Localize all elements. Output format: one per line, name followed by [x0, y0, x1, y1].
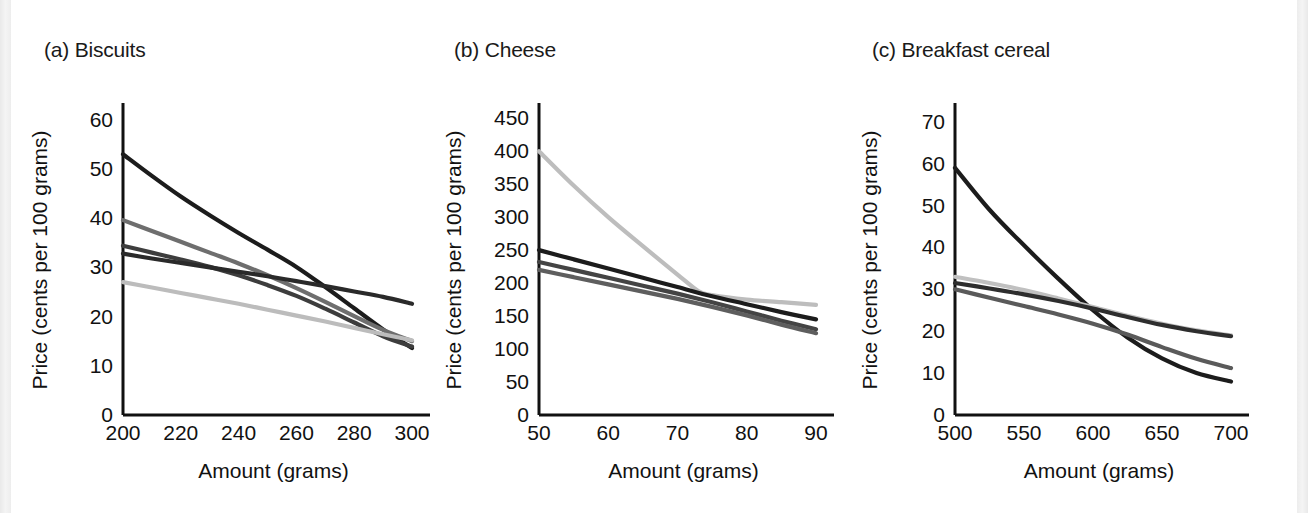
- y-axis-title: Price (cents per 100 grams): [858, 130, 881, 389]
- y-tick-label: 400: [494, 139, 529, 162]
- series-line: [123, 254, 412, 304]
- series-line: [539, 151, 816, 305]
- y-tick-label: 50: [90, 157, 113, 180]
- y-tick-label: 450: [494, 106, 529, 129]
- figure-container: (a) Biscuits 010203040506020022024026028…: [0, 0, 1308, 513]
- y-tick-label: 20: [922, 319, 945, 342]
- y-tick-label: 100: [494, 337, 529, 360]
- y-tick-label: 40: [90, 206, 113, 229]
- panel-cheese: (b) Cheese 05010015020025030035040045050…: [431, 0, 851, 513]
- x-tick-label: 550: [1006, 421, 1041, 444]
- y-tick-label: 200: [494, 271, 529, 294]
- y-tick-label: 50: [506, 370, 529, 393]
- series-line: [123, 220, 412, 341]
- panel-biscuits: (a) Biscuits 010203040506020022024026028…: [11, 0, 431, 513]
- x-tick-label: 220: [163, 421, 198, 444]
- panels-row: (a) Biscuits 010203040506020022024026028…: [11, 0, 1297, 513]
- y-tick-label: 60: [922, 152, 945, 175]
- x-tick-label: 50: [527, 421, 550, 444]
- panel-breakfast-cereal: (c) Breakfast cereal 0102030405060705005…: [851, 0, 1297, 513]
- y-tick-label: 60: [90, 108, 113, 131]
- x-tick-label: 240: [221, 421, 256, 444]
- y-axis-title: Price (cents per 100 grams): [28, 130, 51, 389]
- x-tick-label: 60: [597, 421, 620, 444]
- x-axis-title: Amount (grams): [198, 459, 349, 482]
- left-edge-strip: [0, 0, 11, 513]
- series-line: [955, 277, 1231, 336]
- series-line: [955, 168, 1231, 382]
- series-line: [123, 282, 412, 340]
- y-tick-label: 40: [922, 235, 945, 258]
- y-tick-label: 20: [90, 305, 113, 328]
- x-tick-label: 260: [279, 421, 314, 444]
- series-line: [123, 154, 412, 348]
- chart-plot-c: 010203040506070500550600650700Price (cen…: [851, 0, 1297, 513]
- y-tick-label: 30: [90, 255, 113, 278]
- y-tick-label: 150: [494, 304, 529, 327]
- x-tick-label: 80: [735, 421, 758, 444]
- y-tick-label: 30: [922, 277, 945, 300]
- x-tick-label: 600: [1075, 421, 1110, 444]
- y-tick-label: 50: [922, 194, 945, 217]
- y-tick-label: 10: [922, 361, 945, 384]
- x-tick-label: 650: [1144, 421, 1179, 444]
- series-line: [955, 283, 1231, 336]
- series-line: [539, 250, 816, 319]
- x-axis-title: Amount (grams): [1024, 459, 1175, 482]
- x-tick-label: 300: [394, 421, 429, 444]
- x-tick-label: 500: [937, 421, 972, 444]
- y-tick-label: 70: [922, 110, 945, 133]
- chart-plot-b: 0501001502002503003504004505060708090Pri…: [431, 0, 851, 513]
- chart-plot-a: 0102030405060200220240260280300Price (ce…: [11, 0, 431, 513]
- y-tick-label: 250: [494, 238, 529, 261]
- x-tick-label: 200: [105, 421, 140, 444]
- y-tick-label: 300: [494, 205, 529, 228]
- y-axis-title: Price (cents per 100 grams): [442, 130, 465, 389]
- x-tick-label: 90: [804, 421, 827, 444]
- right-edge-strip: [1297, 0, 1308, 513]
- x-tick-label: 70: [666, 421, 689, 444]
- y-tick-label: 350: [494, 172, 529, 195]
- y-tick-label: 10: [90, 354, 113, 377]
- x-tick-label: 700: [1213, 421, 1248, 444]
- x-tick-label: 280: [337, 421, 372, 444]
- x-axis-title: Amount (grams): [608, 459, 759, 482]
